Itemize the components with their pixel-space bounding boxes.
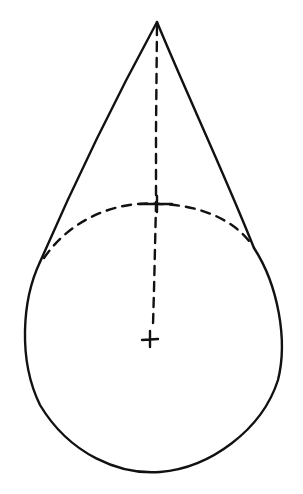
upper-cross-mark — [140, 196, 172, 212]
center-mark-icon — [142, 331, 158, 347]
axis-dashed — [153, 26, 157, 325]
hidden-arc-dashed — [44, 203, 252, 258]
cone-sphere-diagram — [0, 0, 303, 494]
cone-right-edge — [157, 22, 254, 248]
cone-left-edge — [40, 22, 157, 262]
